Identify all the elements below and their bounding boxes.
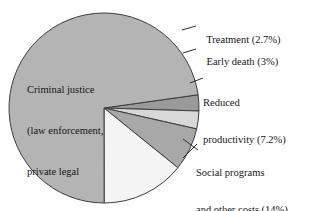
slice-label-criminal-justice-line1: Criminal justice [27,83,103,97]
slice-label-reduced-productivity-line1: Reduced [203,97,286,109]
slice-label-social-programs: Social programs and other costs (14%) [196,142,288,211]
slice-label-criminal-justice-line2: (law enforcement, [27,124,103,138]
slice-label-social-programs-line1: Social programs [196,167,288,179]
leader-line-early-death [183,49,196,53]
slice-label-social-programs-line2: and other costs (14%) [196,204,288,211]
slice-label-criminal-justice-line4: cases, [27,206,103,211]
slice-label-early-death-text: Early death (3%) [207,56,279,67]
pie-chart-figure: Treatment (2.7%) Early death (3%) Reduce… [0,0,313,211]
slice-label-criminal-justice-line3: private legal [27,165,103,179]
leader-line-treatment [182,26,196,30]
slice-label-criminal-justice: Criminal justice (law enforcement, priva… [27,56,103,211]
